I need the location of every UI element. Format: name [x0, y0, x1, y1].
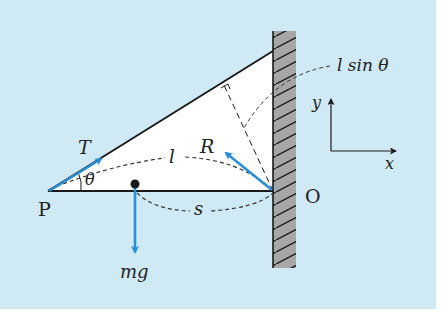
- label-axis-x: x: [385, 154, 394, 173]
- physics-diagram: P O T R mg θ l s l sin θ x y: [0, 0, 436, 309]
- label-weight: mg: [120, 261, 149, 282]
- s-dimension-curve-right: [211, 194, 272, 211]
- label-p: P: [38, 198, 51, 220]
- label-com-distance: s: [194, 198, 203, 219]
- label-tension: T: [78, 136, 92, 158]
- center-of-mass-dot: [131, 180, 140, 189]
- s-dimension-curve: [137, 193, 190, 211]
- label-perpendicular: l sin θ: [337, 55, 389, 75]
- label-reaction: R: [199, 135, 214, 157]
- label-o: O: [305, 185, 321, 207]
- hatched-wall: [273, 31, 296, 268]
- label-axis-y: y: [311, 93, 322, 112]
- label-rod-length: l: [169, 146, 175, 167]
- diagram-canvas: P O T R mg θ l s l sin θ x y: [0, 0, 443, 313]
- label-angle: θ: [85, 170, 95, 189]
